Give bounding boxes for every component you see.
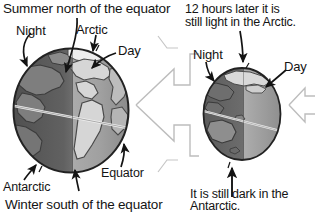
left-globe <box>12 47 130 174</box>
rotation-arrow-fragment-top <box>158 36 178 48</box>
rotation-arrow-left-partial <box>289 88 315 122</box>
label-antarctic: Antarctic <box>3 180 50 195</box>
right-globe-graphic <box>202 66 282 162</box>
caption-still-dark-line2: Antarctic. <box>190 199 240 214</box>
left-globe-graphic <box>12 47 130 174</box>
tick-antarctic-right <box>228 162 230 168</box>
label-equator: Equator <box>101 166 144 181</box>
figure-root: Summer north of the equator Night Arctic… <box>0 0 315 214</box>
right-globe <box>202 66 282 162</box>
label-arctic-left: Arctic <box>76 22 108 37</box>
pointer-12-hours-later <box>240 31 243 62</box>
label-night-right: Night <box>193 47 223 62</box>
title-summer-north: Summer north of the equator <box>3 1 170 17</box>
caption-winter-south: Winter south of the equator <box>5 197 162 213</box>
label-night-left: Night <box>16 23 46 38</box>
rotation-arrow-left <box>136 54 199 156</box>
title-12-hours-line2: still light in the Arctic. <box>185 15 296 30</box>
label-day-right: Day <box>284 59 307 74</box>
label-day-left: Day <box>118 43 141 58</box>
rotation-arrow-fragment-bottom <box>158 160 178 172</box>
